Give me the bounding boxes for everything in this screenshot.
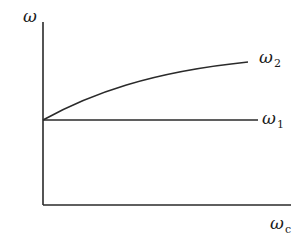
diagram-canvas (0, 0, 306, 236)
omega-1-label-subscript: 1 (277, 118, 284, 131)
omega-1-label: ω1 (262, 110, 284, 127)
omega-1-label-base: ω (262, 108, 276, 128)
omega-2-label: ω2 (259, 49, 281, 66)
x-axis-label-base: ω (270, 213, 284, 233)
x-axis-label: ωc (270, 215, 291, 232)
x-axis-label-subscript: c (285, 223, 291, 236)
omega-2-label-base: ω (259, 47, 273, 67)
y-axis-label: ω (23, 8, 37, 25)
y-axis-label-text: ω (23, 6, 37, 26)
omega-2-label-subscript: 2 (274, 57, 281, 70)
omega-2-curve (43, 62, 248, 120)
